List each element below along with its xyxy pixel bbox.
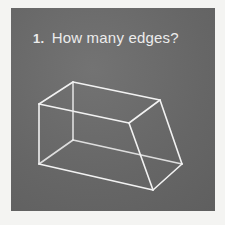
edge-back-slant-right <box>160 100 182 164</box>
edge-back-bottom <box>73 140 182 164</box>
edge-back-top <box>73 82 160 100</box>
edge-top-right-depth <box>129 100 160 123</box>
edge-top-left-depth <box>39 82 73 104</box>
edge-bottom-right-depth <box>153 164 182 190</box>
edge-back-bottom-left-depth <box>39 140 73 164</box>
prism-wireframe-figure <box>0 0 225 225</box>
edge-front-bottom <box>39 164 153 190</box>
edge-front-top <box>39 104 129 123</box>
